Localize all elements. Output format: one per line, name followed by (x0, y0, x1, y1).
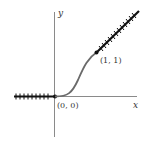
point-1-1 (95, 51, 99, 55)
right-ray (95, 11, 140, 55)
left-ray (14, 94, 57, 100)
origin-label: (0, 0) (57, 101, 79, 110)
function-graph: y x (0, 0) (1, 1) (0, 0, 147, 145)
x-axis-label: x (133, 100, 138, 110)
s-curve (55, 52, 97, 97)
y-axis-label: y (57, 8, 64, 18)
point-1-1-label: (1, 1) (100, 56, 122, 65)
